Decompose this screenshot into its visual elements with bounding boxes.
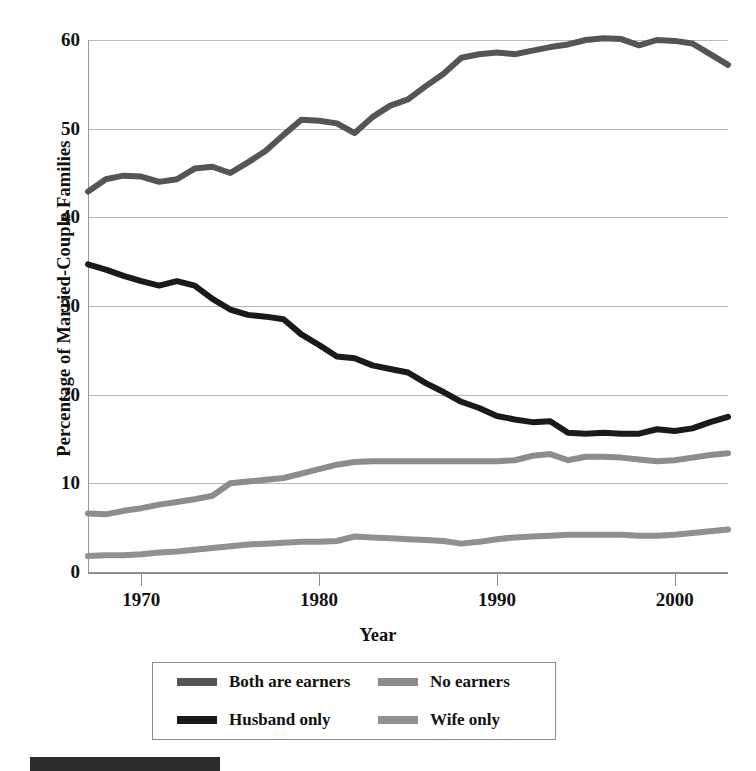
y-tick-label-0: 0	[28, 561, 80, 583]
legend-swatch-icon	[378, 716, 418, 724]
scan-artifact-bar	[30, 757, 220, 771]
plot-left-axis-line	[88, 40, 89, 573]
x-tick-2000	[675, 573, 676, 586]
legend-entry-no-earners[interactable]: No earners	[354, 672, 555, 692]
series-lines	[0, 0, 756, 771]
legend-label: No earners	[430, 672, 510, 692]
x-tick-1970	[141, 573, 142, 586]
gridline-60	[88, 40, 728, 41]
series-line-husband-only	[88, 264, 728, 433]
x-tick-label-2000: 2000	[630, 589, 720, 611]
legend-label: Both are earners	[229, 672, 351, 692]
y-tick-label-60: 60	[28, 29, 80, 51]
y-tick-label-20: 20	[28, 384, 80, 406]
legend-entry-husband-only[interactable]: Husband only	[153, 710, 354, 730]
legend-swatch-icon	[378, 678, 418, 686]
chart-figure: Percentage of Married-Couple Families 60…	[0, 0, 756, 771]
y-tick-label-30: 30	[28, 295, 80, 317]
x-tick-label-1970: 1970	[96, 589, 186, 611]
x-tick-label-1990: 1990	[452, 589, 542, 611]
y-tick-label-40: 40	[28, 206, 80, 228]
gridline-10	[88, 483, 728, 484]
gridline-20	[88, 395, 728, 396]
gridline-40	[88, 217, 728, 218]
series-line-both-are-earners	[88, 38, 728, 191]
chart-legend: Both are earnersNo earnersHusband onlyWi…	[152, 662, 556, 740]
y-tick-label-50: 50	[28, 118, 80, 140]
x-tick-1990	[497, 573, 498, 586]
x-tick-1980	[319, 573, 320, 586]
legend-label: Wife only	[430, 710, 500, 730]
legend-entry-wife-only[interactable]: Wife only	[354, 710, 555, 730]
y-tick-label-10: 10	[28, 472, 80, 494]
x-axis-title: Year	[0, 625, 756, 646]
legend-swatch-icon	[177, 716, 217, 724]
gridline-50	[88, 129, 728, 130]
legend-entry-both-are-earners[interactable]: Both are earners	[153, 672, 354, 692]
legend-label: Husband only	[229, 710, 331, 730]
legend-swatch-icon	[177, 678, 217, 686]
series-line-wife-only	[88, 529, 728, 556]
gridline-30	[88, 306, 728, 307]
x-tick-label-1980: 1980	[274, 589, 364, 611]
gridline-0	[88, 572, 728, 574]
